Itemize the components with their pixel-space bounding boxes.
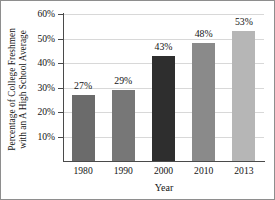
bar-1990 [112,90,135,161]
y-tick-label: 40% [15,58,55,68]
bar-2010 [192,43,215,161]
bar-value-label-2010: 48% [184,29,224,39]
x-axis-title: Year [63,183,265,193]
y-tick-label: 30% [15,83,55,93]
bar-value-label-2000: 43% [144,42,184,52]
y-tick-label: 20% [15,107,55,117]
bar-value-label-2013: 53% [224,17,264,27]
bar-2000 [152,56,175,161]
y-tick-label: 50% [15,34,55,44]
bar-1980 [72,95,95,161]
y-tick-label: 60% [15,9,55,19]
x-axis-line [63,161,265,162]
x-tick-label-2013: 2013 [219,166,269,176]
bar-value-label-1990: 29% [103,76,143,86]
bar-value-label-1980: 27% [63,81,103,91]
bar-2013 [232,31,255,161]
bar-chart-figure: Percentage of College Freshmen with an A… [0,0,275,200]
y-tick-label: 10% [15,132,55,142]
